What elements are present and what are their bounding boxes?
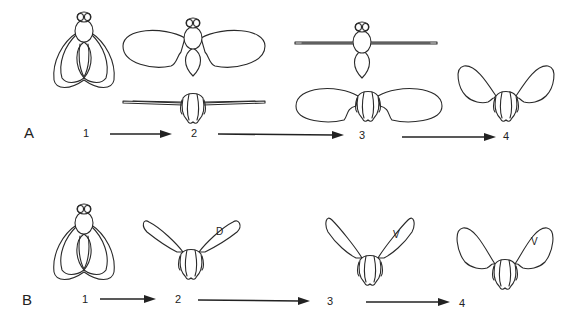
fly-a2-dorsal-spread <box>123 18 265 76</box>
right-arrow-icon <box>402 133 496 141</box>
step-label: 4 <box>503 131 509 142</box>
fly-b4-frontal-raised <box>457 228 553 289</box>
wing-label-v: V <box>531 237 538 247</box>
right-arrow-icon <box>366 298 450 306</box>
fly-a1-dorsal-rest <box>54 12 115 88</box>
wing-label-v: V <box>393 230 400 240</box>
fly-wing-posture-diagram <box>0 0 572 316</box>
step-label: 1 <box>83 128 89 139</box>
fly-a3-frontal-spread <box>296 89 442 122</box>
fly-b1-dorsal-rest <box>54 204 115 280</box>
fly-b3-frontal-v <box>326 218 414 285</box>
step-label: 2 <box>175 294 181 305</box>
step-label: 1 <box>82 294 88 305</box>
step-label: 3 <box>359 130 365 141</box>
right-arrow-icon <box>100 295 156 303</box>
step-label: 3 <box>327 296 333 307</box>
fly-a2-frontal-level <box>123 94 265 124</box>
right-arrow-icon <box>110 130 172 138</box>
fly-a4-frontal-raised <box>458 66 554 121</box>
wing-label-d: D <box>216 227 223 237</box>
panel-label-b: B <box>22 292 32 307</box>
step-label: 2 <box>191 128 197 139</box>
fly-b2-frontal-v <box>143 221 240 279</box>
right-arrow-icon <box>198 297 310 305</box>
fly-a3-dorsal-level <box>295 22 437 78</box>
step-label: 4 <box>459 298 465 309</box>
panel-label-a: A <box>24 125 34 140</box>
right-arrow-icon <box>218 131 344 139</box>
